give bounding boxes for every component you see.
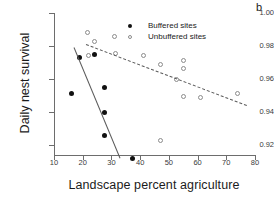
x-tick-label: 70 bbox=[214, 159, 238, 167]
y-tick-mark bbox=[49, 79, 54, 80]
x-tick-label: 60 bbox=[186, 159, 210, 167]
chart-figure: 1.000.980.960.940.92 1020304050607080 La… bbox=[0, 0, 274, 202]
filled-circle-icon bbox=[128, 24, 132, 28]
y-tick-mark bbox=[49, 112, 54, 113]
data-point-unbuffered bbox=[86, 53, 91, 58]
data-point-buffered bbox=[102, 85, 107, 90]
data-point-unbuffered bbox=[112, 34, 117, 39]
y-tick-mark bbox=[49, 46, 54, 47]
x-axis-line bbox=[54, 155, 255, 156]
data-point-buffered bbox=[92, 52, 97, 57]
panel-label: b bbox=[256, 1, 262, 13]
data-point-unbuffered bbox=[158, 138, 163, 143]
trend-line-unbuffered bbox=[85, 44, 246, 106]
data-point-unbuffered bbox=[181, 66, 186, 71]
data-point-buffered bbox=[69, 91, 74, 96]
y-tick-mark bbox=[49, 13, 54, 14]
x-tick-label: 50 bbox=[157, 159, 181, 167]
data-point-unbuffered bbox=[181, 58, 186, 63]
y-tick-mark bbox=[49, 145, 54, 146]
data-point-unbuffered bbox=[235, 91, 240, 96]
x-axis-title: Landscape percent agriculture bbox=[44, 178, 264, 192]
data-point-buffered bbox=[102, 133, 107, 138]
y-tick-label: 0.96 bbox=[244, 75, 274, 83]
y-axis-title: Daily nest survival bbox=[18, 3, 32, 163]
x-tick-label: 10 bbox=[42, 159, 66, 167]
y-axis-line bbox=[54, 13, 55, 155]
y-tick-label: 0.98 bbox=[244, 42, 274, 50]
y-tick-label: 0.92 bbox=[244, 141, 274, 149]
legend-label-buffered: Buffered sites bbox=[148, 20, 197, 31]
x-tick-label: 30 bbox=[99, 159, 123, 167]
trend-line-buffered bbox=[74, 47, 121, 158]
y-tick-label: 0.94 bbox=[244, 108, 274, 116]
data-point-unbuffered bbox=[181, 94, 186, 99]
x-tick-label: 20 bbox=[71, 159, 95, 167]
data-point-unbuffered bbox=[158, 62, 163, 67]
data-point-buffered bbox=[102, 110, 107, 115]
data-point-unbuffered bbox=[198, 95, 203, 100]
data-point-unbuffered bbox=[85, 30, 90, 35]
data-point-unbuffered bbox=[141, 53, 146, 58]
x-tick-label: 80 bbox=[243, 159, 267, 167]
open-circle-icon bbox=[128, 35, 132, 39]
legend-label-unbuffered: Unbuffered sites bbox=[148, 31, 206, 42]
data-point-unbuffered bbox=[92, 39, 97, 44]
